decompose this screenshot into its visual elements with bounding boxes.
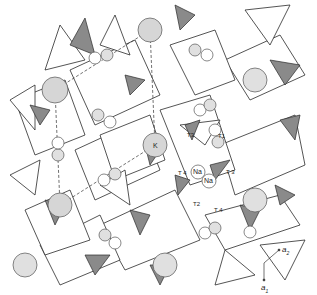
label-t3-upper: T3 — [187, 132, 194, 138]
label-t3-right: T 3 — [226, 169, 235, 175]
label-k: K — [153, 142, 158, 149]
label-t1: T1 — [218, 133, 225, 139]
label-t4-left: T 4 — [178, 170, 187, 176]
axis-a2-label: a2 — [282, 245, 289, 256]
label-na-2: Na — [204, 177, 213, 184]
label-na-1: Na — [193, 168, 202, 175]
label-t4-lower: T 4 — [214, 207, 223, 213]
crystal-structure-figure: T3 T1 T 4 T 3 T2 T 4 Na Na K a2 a1 — [0, 0, 317, 295]
polyhedral-framework — [0, 0, 317, 295]
axis-a1-label: a1 — [261, 283, 268, 294]
label-t2: T2 — [193, 201, 200, 207]
